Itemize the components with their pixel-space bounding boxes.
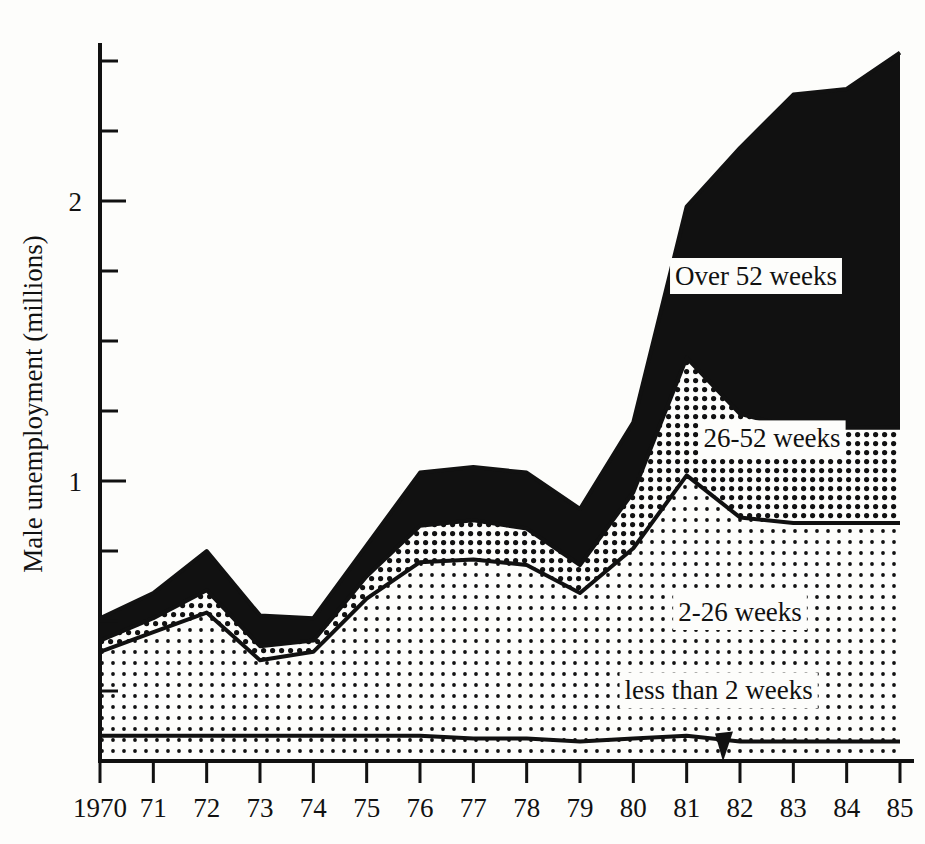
x-tick-label-83: 83 (780, 793, 807, 823)
x-tick-label-73: 73 (247, 793, 274, 823)
x-tick-label-77: 77 (460, 793, 487, 823)
x-tick-label-78: 78 (513, 793, 540, 823)
less-than-2-weeks-label-text: less than 2 weeks (625, 675, 813, 705)
y-tick-label-2: 2 (69, 187, 83, 217)
over-52-weeks-label-text: Over 52 weeks (675, 261, 837, 291)
chart-figure: 121970717273747576777879808182838485 Ove… (0, 0, 925, 844)
x-tick-label-72: 72 (193, 793, 220, 823)
26-52-weeks-label-text: 26-52 weeks (703, 423, 840, 453)
y-tick-label-1: 1 (69, 467, 83, 497)
x-tick-label-80: 80 (620, 793, 647, 823)
26-52-weeks-label: 26-52 weeks (698, 420, 845, 456)
x-tick-label-71: 71 (140, 793, 167, 823)
x-tick-label-79: 79 (567, 793, 594, 823)
area-band-less-than-2-weeks (100, 736, 900, 761)
2-26-weeks-label: 2-26 weeks (673, 594, 807, 630)
less-than-2-weeks-label: less than 2 weeks (620, 672, 818, 708)
x-tick-label-75: 75 (353, 793, 380, 823)
x-tick-label-1970: 1970 (73, 793, 127, 823)
x-tick-label-76: 76 (407, 793, 434, 823)
y-axis-title: Male unemployment (millions) (18, 235, 48, 572)
stacked-area-chart: 121970717273747576777879808182838485 Ove… (0, 0, 925, 844)
2-26-weeks-label-text: 2-26 weeks (678, 597, 802, 627)
x-tick-label-82: 82 (727, 793, 754, 823)
x-tick-label-74: 74 (300, 793, 328, 823)
x-tick-label-84: 84 (833, 793, 861, 823)
plot-area (100, 53, 900, 761)
over-52-weeks-label: Over 52 weeks (670, 258, 842, 294)
x-tick-label-85: 85 (887, 793, 914, 823)
y-axis-title-group: Male unemployment (millions) (18, 235, 48, 572)
x-tick-label-81: 81 (673, 793, 700, 823)
